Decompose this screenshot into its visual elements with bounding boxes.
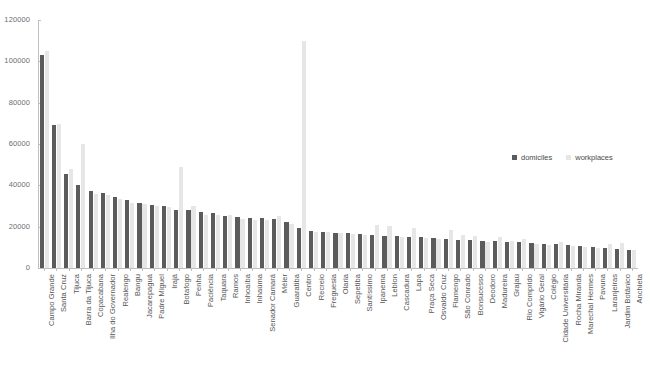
bar-domiciles [272, 219, 276, 268]
x-axis-tick-mark [338, 268, 339, 271]
bar-domiciles [150, 205, 154, 268]
legend-item-domiciles[interactable]: domiciles [512, 153, 552, 162]
bar-domiciles [174, 210, 178, 268]
bar-group [223, 20, 232, 268]
bar-group [137, 20, 146, 268]
bar-group [321, 20, 330, 268]
bar-workplaces [191, 206, 195, 268]
bar-domiciles [125, 200, 129, 268]
x-axis-tick-mark [546, 268, 547, 271]
bar-domiciles [76, 185, 80, 268]
bar-group [578, 20, 587, 268]
x-axis-tick-label: Madureira [500, 274, 509, 308]
bar-domiciles [358, 234, 362, 268]
x-axis-tick-mark [240, 268, 241, 271]
bar-group [346, 20, 355, 268]
x-axis-tick-label: Guaratiba [292, 274, 301, 307]
bar-domiciles [297, 228, 301, 268]
bar-group [603, 20, 612, 268]
x-axis-tick-label: Taquara [219, 274, 228, 301]
x-axis-tick-mark [69, 268, 70, 271]
x-axis-tick-mark [105, 268, 106, 271]
bar-workplaces [596, 248, 600, 268]
x-axis-tick-label: Lapa [414, 274, 423, 291]
bar-domiciles [456, 240, 460, 268]
x-axis-tick-mark [411, 268, 412, 271]
bar-group [493, 20, 502, 268]
bar-group [542, 20, 551, 268]
bar-workplaces [167, 207, 171, 268]
legend-item-workplaces[interactable]: workplaces [566, 153, 613, 162]
x-axis-tick-label: Ramos [231, 274, 240, 298]
x-axis-tick-label: Irajá [170, 274, 179, 289]
bar-domiciles [235, 217, 239, 268]
bar-workplaces [510, 241, 514, 268]
x-axis-tick-label: Olaria [341, 274, 350, 294]
x-axis-tick-label: Centro [304, 274, 313, 297]
bar-domiciles [542, 244, 546, 268]
x-axis-tick-mark [154, 268, 155, 271]
bar-workplaces [216, 215, 220, 268]
bar-domiciles [223, 216, 227, 268]
bar-domiciles [52, 125, 56, 268]
bar-workplaces [81, 144, 85, 268]
x-axis-tick-label: Praça Seca [427, 274, 436, 313]
y-axis-tick-label: 0 [26, 263, 30, 272]
bar-group [113, 20, 122, 268]
x-axis-tick-label: Recreio [317, 274, 326, 300]
bar-domiciles [615, 249, 619, 268]
bar-workplaces [314, 232, 318, 268]
x-axis-tick-label: Senador Camará [268, 274, 277, 332]
y-axis-tick-mark [38, 268, 41, 269]
bar-group [456, 20, 465, 268]
bar-group [297, 20, 306, 268]
x-axis-tick-mark [620, 268, 621, 271]
bar-workplaces [547, 245, 551, 268]
x-axis-tick-label: Vigário Geral [537, 274, 546, 318]
x-axis-tick-label: Jacarepaguá [145, 274, 154, 318]
x-axis-tick-label: Cascadura [402, 274, 411, 311]
x-axis-tick-label: Penha [194, 274, 203, 296]
x-axis-tick-label: Marechal Hermes [586, 274, 595, 334]
bar-group [480, 20, 489, 268]
bar-group [382, 20, 391, 268]
x-axis-tick-mark [167, 268, 168, 271]
x-axis-tick-label: Ilha do Governador [108, 274, 117, 339]
x-axis-tick-mark [375, 268, 376, 271]
bar-domiciles [419, 237, 423, 268]
bar-domiciles [529, 243, 533, 268]
x-axis-tick-mark [583, 268, 584, 271]
bar-group [358, 20, 367, 268]
x-axis-tick-label: Santa Cruz [59, 274, 68, 312]
bar-group [407, 20, 416, 268]
bar-workplaces [142, 204, 146, 268]
bar-group [52, 20, 61, 268]
x-axis-tick-mark [387, 268, 388, 271]
bar-group [627, 20, 636, 268]
x-axis-tick-label: Deodoro [488, 274, 497, 303]
y-axis-tick-label: 60000 [9, 139, 30, 148]
bar-domiciles [346, 233, 350, 268]
bar-group [468, 20, 477, 268]
bar-workplaces [522, 239, 526, 268]
bar-workplaces [106, 195, 110, 268]
x-axis-tick-mark [485, 268, 486, 271]
x-axis-tick-label: Rocha Miranda [574, 274, 583, 326]
bar-workplaces [387, 226, 391, 268]
x-axis-tick-mark [436, 268, 437, 271]
bar-domiciles [113, 197, 117, 268]
x-axis-tick-label: Bonsucesso [476, 274, 485, 315]
bar-workplaces [620, 243, 624, 268]
bar-workplaces [253, 220, 257, 268]
bar-domiciles [382, 236, 386, 268]
x-axis-tick-mark [399, 268, 400, 271]
bar-domiciles [211, 213, 215, 268]
bar-workplaces [412, 228, 416, 268]
y-axis-tick-label: 100000 [4, 56, 30, 65]
bar-chart: 020000400006000080000100000120000 Campo … [0, 0, 650, 369]
bar-workplaces [130, 203, 134, 268]
bar-domiciles [480, 241, 484, 268]
bar-workplaces [461, 235, 465, 268]
bar-domiciles [309, 231, 313, 268]
bar-workplaces [57, 124, 61, 268]
